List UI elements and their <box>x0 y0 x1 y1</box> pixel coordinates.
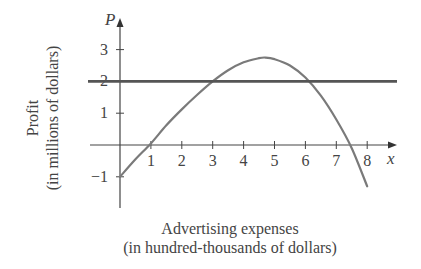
x-tick-label: 6 <box>301 152 309 169</box>
y-axis-arrow-icon <box>117 18 124 27</box>
x-tick-label: 8 <box>363 152 371 169</box>
axes <box>90 18 397 208</box>
x-tick-label: 2 <box>178 152 186 169</box>
x-tick-label: 5 <box>271 152 279 169</box>
y-tick-label: 1 <box>100 104 108 121</box>
x-axis-label: Advertising expenses <box>100 219 360 238</box>
x-tick-label: 4 <box>240 152 248 169</box>
x-axis-arrow-icon <box>388 142 397 149</box>
y-axis-variable: P <box>104 10 115 29</box>
y-tick-label: 3 <box>100 41 108 58</box>
x-tick-label: 3 <box>209 152 217 169</box>
x-axis-variable: x <box>386 149 395 168</box>
x-tick-label: 7 <box>332 152 340 169</box>
y-axis-sublabel: (in millions of dollars) <box>44 46 62 190</box>
x-tick-label: 1 <box>147 152 155 169</box>
y-axis-label: Profit <box>24 99 41 136</box>
chart: 12345678−1123 P x Profit (in millions of… <box>0 0 421 269</box>
y-tick-label: −1 <box>91 168 108 185</box>
x-axis-sublabel: (in hundred-thousands of dollars) <box>90 238 370 257</box>
